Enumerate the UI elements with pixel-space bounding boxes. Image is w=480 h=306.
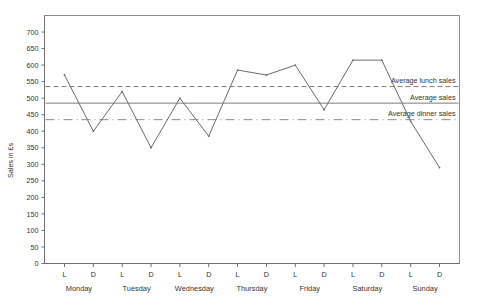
x-axis-day-label: Monday — [66, 284, 93, 293]
x-tick-label: L — [236, 270, 240, 279]
x-tick-label: D — [148, 270, 153, 279]
data-point — [150, 147, 152, 149]
y-tick-label: 350 — [27, 143, 39, 152]
chart-background — [0, 0, 480, 306]
data-point — [208, 135, 210, 137]
reference-line-label: Average lunch sales — [391, 76, 456, 85]
sales-line-chart: 0501001502002503003504004505005506006507… — [0, 0, 480, 306]
reference-line-label: Average dinner sales — [388, 109, 456, 118]
y-tick-label: 550 — [27, 77, 39, 86]
x-tick-label: L — [409, 270, 413, 279]
data-point — [121, 91, 123, 93]
x-tick-label: L — [120, 270, 124, 279]
x-tick-label: L — [63, 270, 67, 279]
x-tick-label: D — [264, 270, 269, 279]
x-tick-label: D — [437, 270, 442, 279]
data-point — [323, 109, 325, 111]
y-tick-label: 250 — [27, 176, 39, 185]
x-axis-day-labels: MondayTuesdayWednesdayThursdayFridaySatu… — [66, 284, 438, 293]
y-tick-label: 0 — [35, 259, 39, 268]
x-tick-label: D — [206, 270, 211, 279]
x-tick-label: D — [379, 270, 384, 279]
data-point — [439, 167, 441, 169]
x-tick-label: L — [293, 270, 297, 279]
x-tick-label: D — [322, 270, 327, 279]
y-tick-label: 650 — [27, 44, 39, 53]
y-tick-label: 700 — [27, 28, 39, 37]
y-tick-label: 500 — [27, 94, 39, 103]
chart-canvas: 0501001502002503003504004505005506006507… — [0, 0, 480, 306]
y-tick-label: 100 — [27, 226, 39, 235]
x-axis-day-label: Sunday — [413, 284, 438, 293]
y-tick-label: 400 — [27, 127, 39, 136]
data-point — [92, 130, 94, 132]
data-point — [410, 120, 412, 122]
y-axis-title: Sales in £s — [6, 142, 15, 178]
data-point — [266, 74, 268, 76]
data-point — [179, 97, 181, 99]
y-tick-label: 200 — [27, 193, 39, 202]
data-point — [381, 59, 383, 61]
x-tick-label: D — [91, 270, 96, 279]
x-axis-day-label: Wednesday — [175, 284, 214, 293]
data-point — [352, 59, 354, 61]
y-tick-label: 450 — [27, 110, 39, 119]
data-point — [237, 69, 239, 71]
data-point — [64, 74, 66, 76]
y-axis-title-label: Sales in £s — [6, 142, 15, 178]
y-tick-label: 150 — [27, 210, 39, 219]
y-tick-label: 600 — [27, 61, 39, 70]
reference-line-label: Average sales — [410, 93, 456, 102]
x-axis-day-label: Saturday — [353, 284, 383, 293]
x-axis-day-label: Tuesday — [123, 284, 151, 293]
x-axis-day-label: Thursday — [237, 284, 268, 293]
data-point — [294, 64, 296, 66]
y-tick-label: 300 — [27, 160, 39, 169]
y-tick-label: 50 — [31, 243, 39, 252]
x-tick-label: L — [178, 270, 182, 279]
x-axis-day-label: Friday — [299, 284, 320, 293]
x-tick-label: L — [351, 270, 355, 279]
